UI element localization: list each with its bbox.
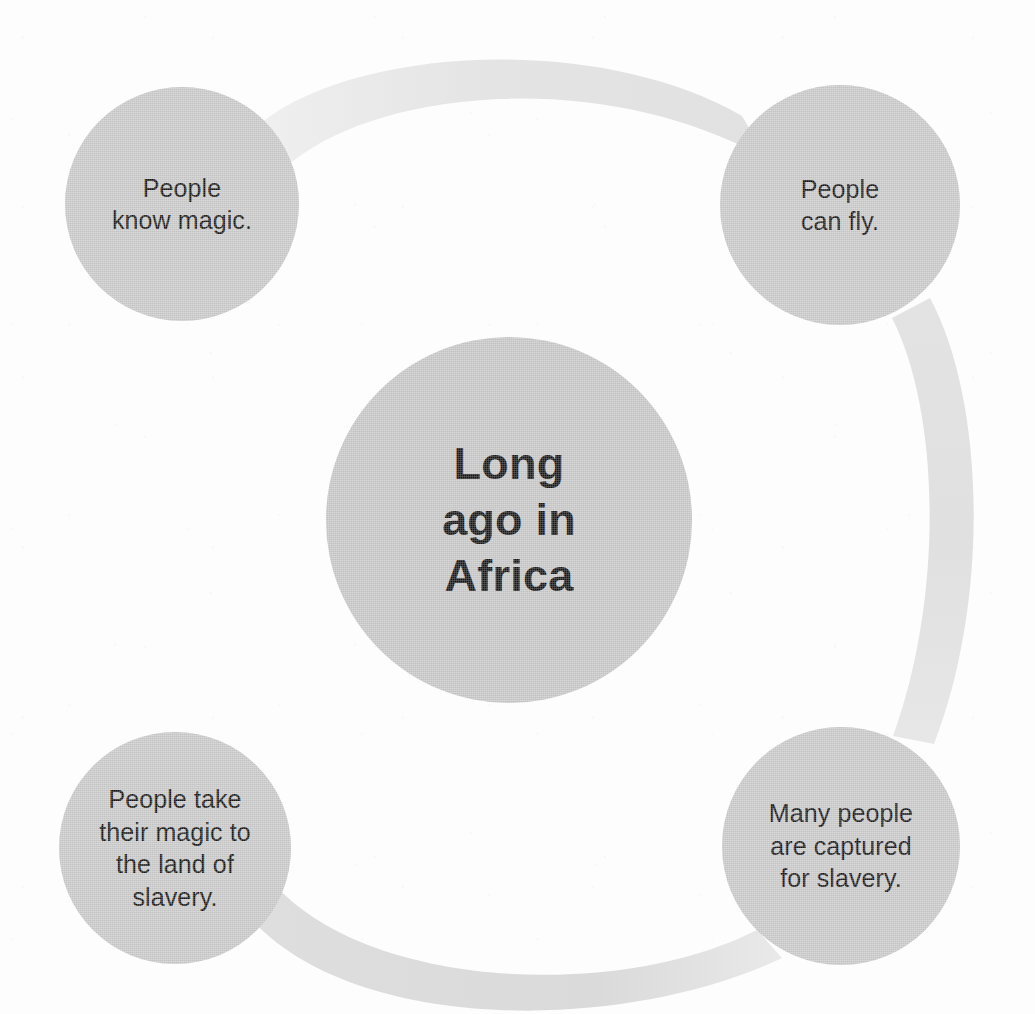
node-people-can-fly[interactable]: People can fly. <box>720 85 960 325</box>
story-circle-diagram: People know magic. People can fly. Many … <box>0 0 1035 1014</box>
node-label-people-know-magic: People know magic. <box>112 172 252 237</box>
node-label-people-take-magic: People take their magic to the land of s… <box>99 783 250 913</box>
node-many-people-captured[interactable]: Many people are captured for slavery. <box>722 727 960 965</box>
connector-arc-bottom <box>250 886 782 1011</box>
node-label-people-can-fly: People can fly. <box>801 173 879 238</box>
connector-arc-right <box>892 298 974 744</box>
node-label-many-people-captured: Many people are captured for slavery. <box>769 797 913 895</box>
node-center-long-ago-in-africa[interactable]: Long ago in Africa <box>326 337 692 703</box>
node-people-know-magic[interactable]: People know magic. <box>65 87 299 321</box>
node-label-center: Long ago in Africa <box>442 436 576 603</box>
connector-arc-top <box>262 60 768 162</box>
node-people-take-magic[interactable]: People take their magic to the land of s… <box>59 732 291 964</box>
